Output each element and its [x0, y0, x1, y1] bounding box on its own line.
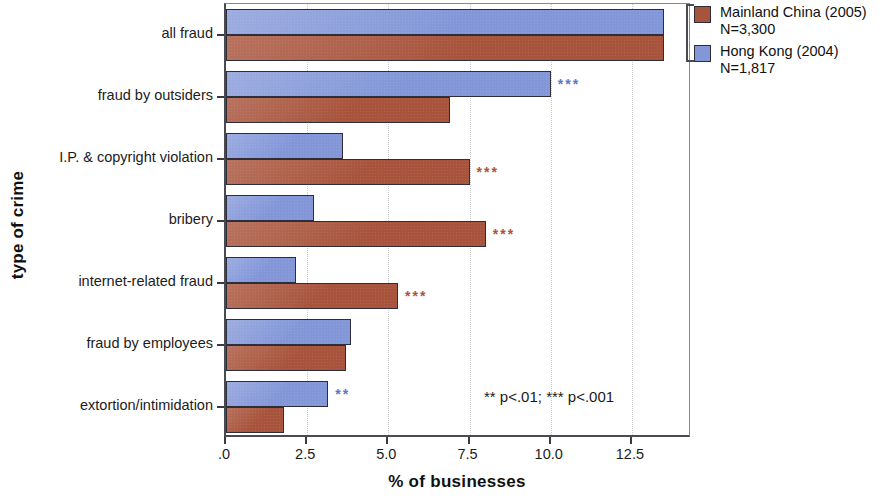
bar-hong-kong: [226, 195, 314, 221]
significance-marker: ***: [558, 71, 580, 97]
x-axis-tick-mark: [549, 437, 551, 444]
bar-hong-kong: [226, 9, 664, 35]
y-axis-tick-label: I.P. & copyright violation: [0, 149, 213, 165]
significance-marker: ***: [477, 159, 499, 185]
legend-label: Hong Kong (2004): [720, 43, 886, 60]
y-axis-tick-label: fraud by outsiders: [0, 87, 213, 103]
bar-mainland-china: [226, 221, 486, 247]
x-axis-tick-mark: [224, 437, 226, 444]
y-axis-tick-mark: [217, 34, 224, 36]
significance-marker: **: [335, 381, 350, 407]
x-axis-title: % of businesses: [224, 472, 690, 492]
y-axis-tick-mark: [217, 96, 224, 98]
legend: Mainland China (2005)N=3,300Hong Kong (2…: [694, 4, 886, 82]
bar-mainland-china: [226, 345, 346, 371]
x-axis-tick-label: 2.5: [275, 446, 335, 462]
y-axis-tick-mark: [217, 406, 224, 408]
gridline: [632, 4, 634, 435]
gridline: [470, 4, 472, 435]
legend-sample-size: N=1,817: [720, 60, 886, 77]
plot-area: **************: [224, 3, 690, 437]
bar-mainland-china: [226, 97, 450, 123]
gridline: [388, 4, 390, 435]
x-axis-tick-label: 12.5: [600, 446, 660, 462]
legend-entry: Hong Kong (2004)N=1,817: [694, 43, 886, 77]
bar-hong-kong: [226, 257, 296, 283]
x-axis-tick-mark: [386, 437, 388, 444]
legend-label: Mainland China (2005): [720, 4, 886, 21]
bar-hong-kong: [226, 319, 351, 345]
bar-hong-kong: [226, 381, 328, 407]
x-axis-tick-label: 10.0: [519, 446, 579, 462]
legend-swatch: [694, 6, 711, 23]
gridline: [551, 4, 553, 435]
y-axis-tick-mark: [217, 158, 224, 160]
y-axis-tick-mark: [217, 282, 224, 284]
x-axis-tick-label: .0: [194, 446, 254, 462]
x-axis-tick-mark: [305, 437, 307, 444]
y-axis-tick-label: all fraud: [0, 25, 213, 41]
significance-marker: ***: [405, 283, 427, 309]
y-axis-tick-label: bribery: [0, 211, 213, 227]
y-axis-tick-label: internet-related fraud: [0, 273, 213, 289]
x-axis-tick-mark: [468, 437, 470, 444]
significance-note: ** p<.01; *** p<.001: [484, 388, 614, 405]
bar-mainland-china: [226, 283, 398, 309]
legend-bracket: [686, 4, 694, 62]
x-axis-tick-label: 7.5: [438, 446, 498, 462]
bar-mainland-china: [226, 35, 664, 61]
bar-hong-kong: [226, 71, 551, 97]
y-axis-tick-mark: [217, 220, 224, 222]
bar-mainland-china: [226, 407, 284, 433]
x-axis-tick-mark: [630, 437, 632, 444]
bar-mainland-china: [226, 159, 470, 185]
legend-sample-size: N=3,300: [720, 21, 886, 38]
bar-chart: type of crime ************** all fraudfr…: [0, 0, 889, 503]
y-axis-tick-mark: [217, 344, 224, 346]
legend-entry: Mainland China (2005)N=3,300: [694, 4, 886, 38]
y-axis-tick-label: fraud by employees: [0, 335, 213, 351]
x-axis-tick-label: 5.0: [356, 446, 416, 462]
significance-marker: ***: [493, 221, 515, 247]
legend-swatch: [694, 45, 711, 62]
bar-hong-kong: [226, 133, 343, 159]
y-axis-tick-label: extortion/intimidation: [0, 397, 213, 413]
